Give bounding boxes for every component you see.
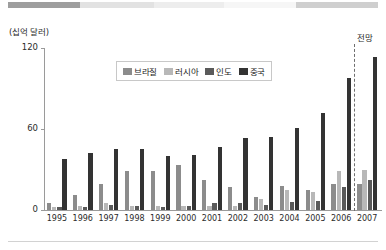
bar-러시아-1996 — [78, 206, 82, 210]
bar-러시아-2005 — [311, 192, 315, 210]
legend-swatch-icon-러시아 — [164, 68, 173, 75]
bar-group-2004 — [280, 48, 300, 210]
bar-브라질-2005 — [306, 190, 310, 210]
x-tick-label-2002: 2002 — [225, 214, 251, 223]
bar-group-2006 — [331, 48, 351, 210]
bar-인도-1998 — [135, 206, 139, 210]
bar-인도-2001 — [212, 203, 216, 210]
bar-중국-2004 — [295, 128, 299, 210]
bar-중국-2000 — [192, 155, 196, 210]
legend-label: 중국 — [250, 65, 265, 77]
x-tick-label-2005: 2005 — [302, 214, 328, 223]
bar-브라질-1996 — [73, 195, 77, 210]
forecast-label: 전망 — [357, 31, 373, 43]
bar-중국-2006 — [347, 78, 351, 210]
legend-item-중국: 중국 — [239, 65, 265, 77]
x-tick-label-2000: 2000 — [173, 214, 199, 223]
bar-인도-2003 — [264, 205, 268, 210]
bar-러시아-2000 — [181, 206, 185, 210]
bar-인도-1997 — [109, 205, 113, 210]
bar-브라질-2007 — [357, 184, 361, 210]
bar-중국-1996 — [88, 153, 92, 210]
legend-item-인도: 인도 — [205, 65, 231, 77]
header-band — [0, 0, 386, 9]
bar-인도-2004 — [290, 202, 294, 210]
bar-중국-1995 — [62, 159, 66, 210]
legend-label: 러시아 — [175, 65, 198, 77]
bar-브라질-2002 — [228, 187, 232, 210]
bar-중국-1999 — [166, 156, 170, 210]
x-tick-label-2003: 2003 — [251, 214, 277, 223]
bar-브라질-2000 — [176, 165, 180, 210]
bar-인도-2006 — [342, 187, 346, 210]
bar-러시아-2003 — [259, 199, 263, 210]
bar-브라질-2003 — [254, 197, 258, 211]
y-tick-label-120: 120 — [2, 42, 38, 52]
bar-중국-1998 — [140, 149, 144, 210]
legend-item-러시아: 러시아 — [164, 65, 198, 77]
x-tick-label-2001: 2001 — [199, 214, 225, 223]
bar-브라질-2001 — [202, 180, 206, 210]
legend-swatch-icon-중국 — [239, 68, 248, 75]
bar-브라질-1995 — [47, 203, 51, 210]
bottom-divider — [8, 241, 378, 242]
x-axis-line — [44, 210, 382, 211]
y-tick-mark-0 — [41, 210, 44, 211]
bar-중국-2002 — [243, 138, 247, 210]
bar-중국-2007 — [373, 57, 377, 210]
bar-브라질-1999 — [151, 171, 155, 210]
bar-group-2005 — [306, 48, 326, 210]
x-tick-label-2006: 2006 — [328, 214, 354, 223]
y-tick-label-0: 0 — [2, 204, 38, 214]
bar-인도-2007 — [368, 180, 372, 210]
x-tick-label-2007: 2007 — [354, 214, 380, 223]
bar-러시아-2004 — [285, 190, 289, 210]
bar-group-1995 — [47, 48, 67, 210]
forecast-divider-line — [354, 44, 355, 211]
legend-swatch-icon-인도 — [205, 68, 214, 75]
bar-중국-2005 — [321, 113, 325, 210]
legend-label: 인도 — [216, 65, 231, 77]
bar-인도-2002 — [238, 203, 242, 210]
x-tick-label-2004: 2004 — [277, 214, 303, 223]
legend-swatch-icon-브라질 — [123, 68, 132, 75]
chart-legend: 브라질러시아인도중국 — [116, 61, 272, 81]
legend-item-브라질: 브라질 — [123, 65, 157, 77]
bar-인도-2005 — [316, 201, 320, 210]
header-band-segment-4 — [296, 2, 378, 8]
header-band-segment-2 — [154, 2, 224, 8]
bar-러시아-2007 — [362, 170, 366, 211]
bar-group-2007 — [357, 48, 377, 210]
header-band-segment-1 — [80, 2, 154, 8]
bar-group-1996 — [73, 48, 93, 210]
bar-러시아-1997 — [104, 203, 108, 210]
bar-러시아-1998 — [130, 206, 134, 210]
bar-브라질-1998 — [125, 171, 129, 210]
bar-중국-2003 — [269, 137, 273, 210]
bar-중국-1997 — [114, 149, 118, 210]
bar-러시아-1999 — [156, 206, 160, 210]
x-tick-label-1996: 1996 — [70, 214, 96, 223]
bar-인도-1999 — [161, 207, 165, 210]
bar-브라질-2006 — [331, 184, 335, 210]
bar-브라질-2004 — [280, 186, 284, 210]
legend-label: 브라질 — [134, 65, 157, 77]
x-tick-label-1995: 1995 — [44, 214, 70, 223]
y-tick-label-60: 60 — [2, 123, 38, 133]
x-tick-label-1999: 1999 — [147, 214, 173, 223]
bar-브라질-1997 — [99, 184, 103, 210]
bar-러시아-2002 — [233, 206, 237, 210]
bar-러시아-1995 — [52, 207, 56, 210]
header-band-segment-0 — [8, 2, 80, 8]
bar-러시아-2006 — [337, 171, 341, 210]
bar-인도-1995 — [57, 207, 61, 210]
bar-러시아-2001 — [207, 206, 211, 210]
bar-인도-2000 — [187, 206, 191, 210]
bar-인도-1996 — [83, 207, 87, 210]
y-axis-unit-label: (십억 달러) — [9, 25, 49, 37]
x-tick-label-1997: 1997 — [96, 214, 122, 223]
bar-중국-2001 — [218, 147, 222, 210]
x-tick-label-1998: 1998 — [122, 214, 148, 223]
header-band-segment-3 — [224, 2, 296, 8]
